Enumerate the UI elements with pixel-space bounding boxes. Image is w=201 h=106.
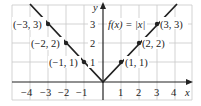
function-label: f(x) = |x| <box>108 19 145 31</box>
x-tick-labels: −4 −3 −2 −1 1 2 3 4 <box>21 87 177 98</box>
point-label: (2, 2) <box>142 38 165 50</box>
point-label: (3, 3) <box>160 19 183 31</box>
y-axis-arrow-icon <box>100 2 106 9</box>
svg-text:3: 3 <box>154 87 159 98</box>
svg-text:−2: −2 <box>58 87 69 98</box>
svg-text:3: 3 <box>90 19 95 30</box>
svg-text:4: 4 <box>171 87 177 98</box>
svg-text:2: 2 <box>90 38 95 49</box>
y-tick-labels: 3 2 1 <box>88 18 98 68</box>
svg-text:1: 1 <box>90 57 95 68</box>
point-label: (1, 1) <box>125 57 148 69</box>
svg-text:2: 2 <box>136 87 141 98</box>
point-label: (−2, 2) <box>31 38 60 50</box>
svg-text:1: 1 <box>118 87 123 98</box>
svg-text:−1: −1 <box>76 87 87 98</box>
y-axis-label: y <box>92 2 98 13</box>
svg-text:−3: −3 <box>40 87 51 98</box>
svg-text:−4: −4 <box>21 87 33 98</box>
abs-value-graph: (−3, 3) (−2, 2) (−1, 1) (1, 1) (2, 2) (3… <box>0 0 201 106</box>
x-axis-label: x <box>184 87 190 98</box>
point-label: (−1, 1) <box>49 57 78 69</box>
point-label: (−3, 3) <box>13 19 42 31</box>
